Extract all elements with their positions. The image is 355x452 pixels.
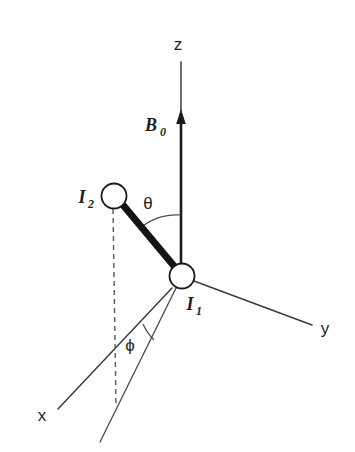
nucleus-I1-label: I <box>185 294 194 314</box>
b0-field-subscript: 0 <box>160 125 166 139</box>
b0-arrowhead <box>176 109 186 124</box>
nucleus-I1-subscript: 1 <box>196 304 202 318</box>
axis-group <box>58 62 312 409</box>
phi-arc <box>143 324 154 340</box>
nucleus-I2-circle <box>102 184 127 209</box>
nucleus-I1-circle <box>170 264 195 289</box>
z-axis-label: z <box>174 35 183 54</box>
coordinate-system-diagram: z y x B 0 I 1 I 2 θ ϕ <box>0 0 355 452</box>
y-axis-label: y <box>321 319 330 338</box>
nucleus-I2-label: I <box>77 187 86 207</box>
y-axis-line <box>194 281 312 325</box>
theta-angle-label: θ <box>143 194 152 213</box>
figure-canvas: z y x B 0 I 1 I 2 θ ϕ <box>0 0 355 452</box>
projection-line <box>100 282 179 442</box>
x-axis-label: x <box>38 406 47 425</box>
dashed-drop-line <box>113 209 116 406</box>
b0-field-vector <box>176 109 186 272</box>
phi-angle-label: ϕ <box>125 336 135 355</box>
b0-field-label: B <box>144 115 157 135</box>
nucleus-I2-subscript: 2 <box>87 197 94 211</box>
